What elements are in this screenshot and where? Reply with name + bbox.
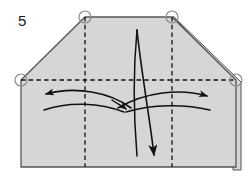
origami-diagram-figure: 5 — [0, 0, 252, 180]
step-number: 5 — [18, 12, 26, 29]
origami-diagram-canvas: 5 — [0, 0, 252, 180]
